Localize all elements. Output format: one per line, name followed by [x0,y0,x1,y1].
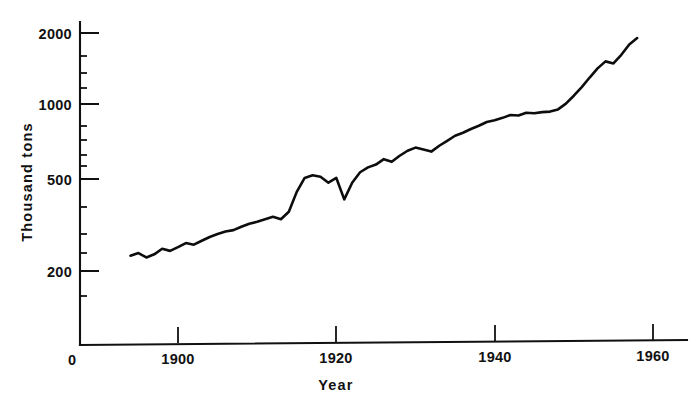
y-axis-title: Thousand tons [19,122,35,242]
x-tick-label-1960: 1960 [636,348,669,364]
x-tick-label-1900: 1900 [161,351,194,367]
x-tick-label-1920: 1920 [319,350,352,366]
y-tick-label-500: 500 [47,172,72,188]
origin-label: 0 [68,352,76,368]
line-chart-svg: 2000 1000 500 200 0 1900 1920 1940 1960 … [0,0,693,402]
data-series-line [131,38,638,257]
x-tick-label-1940: 1940 [478,349,511,365]
y-tick-label-1000: 1000 [39,97,72,113]
x-axis-line [80,340,687,345]
chart-figure: 2000 1000 500 200 0 1900 1920 1940 1960 … [0,0,693,402]
y-tick-label-2000: 2000 [39,26,72,42]
y-tick-label-200: 200 [47,264,72,280]
x-axis-title: Year [318,377,353,393]
